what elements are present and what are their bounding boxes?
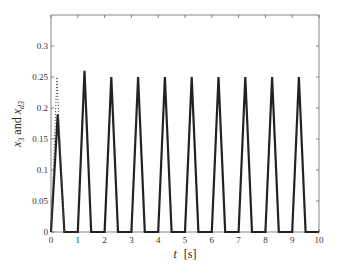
y-axis-label: x3 and xd3 bbox=[10, 101, 26, 148]
x-tick-label: 3 bbox=[129, 235, 134, 245]
axis-ticks bbox=[51, 15, 319, 232]
x-tick-label: 6 bbox=[210, 235, 215, 245]
y-tick-label: 0.3 bbox=[37, 41, 49, 51]
x-tick-label: 5 bbox=[183, 235, 188, 245]
x-tick-label: 10 bbox=[315, 235, 325, 245]
x-tick-label: 0 bbox=[49, 235, 54, 245]
x-tick-labels: 012345678910 bbox=[49, 235, 324, 245]
plot-area: 012345678910 00.050.10.150.20.250.3 bbox=[32, 15, 324, 245]
y-tick-label: 0 bbox=[44, 227, 49, 237]
x-tick-label: 2 bbox=[102, 235, 107, 245]
y-tick-label: 0.25 bbox=[32, 72, 48, 82]
y-tick-labels: 00.050.10.150.20.250.3 bbox=[32, 41, 48, 237]
x-tick-label: 8 bbox=[263, 235, 268, 245]
y-tick-label: 0.2 bbox=[37, 103, 48, 113]
x-axis-label: t [s] bbox=[173, 247, 196, 261]
y-tick-label: 0.05 bbox=[32, 196, 48, 206]
x-tick-label: 1 bbox=[76, 235, 81, 245]
x-tick-label: 7 bbox=[236, 235, 241, 245]
y-tick-label: 0.15 bbox=[32, 134, 48, 144]
plot-frame bbox=[51, 15, 319, 232]
x-tick-label: 9 bbox=[290, 235, 295, 245]
y-tick-label: 0.1 bbox=[37, 165, 48, 175]
chart: 012345678910 00.050.10.150.20.250.3 t [s… bbox=[0, 0, 338, 274]
series-x3-line bbox=[51, 71, 319, 232]
x-tick-label: 4 bbox=[156, 235, 161, 245]
